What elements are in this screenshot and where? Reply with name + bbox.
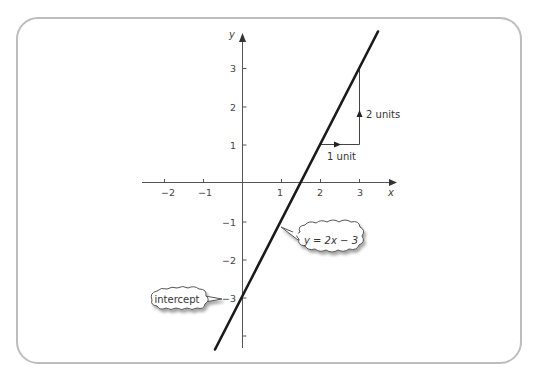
y-tick-label: 3 xyxy=(230,63,236,74)
rise-label: 2 units xyxy=(366,109,400,120)
intercept-callout-text: intercept xyxy=(155,294,200,305)
x-ticks xyxy=(165,179,360,183)
x-tick-label: 3 xyxy=(357,187,363,198)
y-axis: 3 2 1 −1 −2 −3 y xyxy=(222,29,247,348)
equation-callout-text: y = 2x − 3 xyxy=(303,235,358,246)
slope-triangle: 1 unit 2 units xyxy=(321,69,401,162)
chart-canvas: −2 −1 1 2 3 x 3 2 1 −1 −2 −3 y 1 unit xyxy=(0,0,538,377)
x-tick-label: 2 xyxy=(317,187,323,198)
y-tick-label: 1 xyxy=(230,140,236,151)
run-arrow-icon xyxy=(334,142,341,148)
line-y-equals-2x-minus-3 xyxy=(215,32,378,350)
x-axis-label: x xyxy=(387,187,394,198)
x-tick-label: 1 xyxy=(277,187,283,198)
x-axis-arrow-icon xyxy=(389,179,397,186)
x-tick-label: −2 xyxy=(161,187,175,198)
rise-arrow-icon xyxy=(357,110,363,117)
y-tick-label: −2 xyxy=(222,255,236,266)
run-label: 1 unit xyxy=(327,151,356,162)
y-axis-label: y xyxy=(228,29,236,40)
x-axis: −2 −1 1 2 3 x xyxy=(142,179,397,198)
y-tick-label: −3 xyxy=(222,293,236,304)
y-tick-label: −1 xyxy=(222,217,236,228)
y-tick-label: 2 xyxy=(230,102,236,113)
x-tick-label: −1 xyxy=(198,187,212,198)
y-axis-arrow-icon xyxy=(239,33,246,42)
